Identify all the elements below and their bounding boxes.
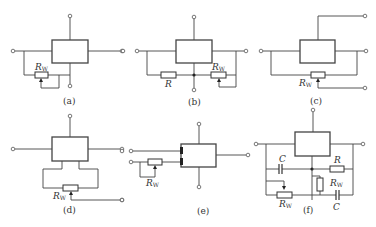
- amplifier-block: [300, 40, 335, 63]
- wiper-arrow-icon: [316, 78, 320, 82]
- terminal: [68, 114, 72, 118]
- wiper-arrow-icon: [153, 165, 157, 169]
- terminal: [246, 153, 250, 157]
- terminal: [363, 14, 367, 18]
- rw-label: RW: [52, 191, 67, 201]
- subfigure-b: R RW (b): [121, 15, 248, 107]
- amplifier-block: [295, 132, 330, 156]
- terminal: [121, 49, 125, 53]
- potentiometer-rw: [35, 72, 48, 78]
- amplifier-block: [52, 40, 88, 63]
- subfigure-d: RW (d): [11, 114, 124, 215]
- subfigure-a: RW (a): [11, 14, 124, 106]
- terminal: [129, 149, 133, 153]
- terminal: [197, 122, 201, 126]
- terminal: [135, 49, 139, 53]
- c-label: C: [279, 154, 286, 164]
- potentiometer-rw-vertical: [317, 178, 323, 191]
- terminal: [254, 142, 258, 146]
- input-pin: [180, 147, 183, 154]
- r-label: R: [164, 79, 172, 89]
- subfigure-e: RW (e): [120, 122, 250, 216]
- terminal: [361, 142, 365, 146]
- wiper-arrow-icon: [69, 191, 73, 195]
- potentiometer-rw: [211, 72, 226, 78]
- potentiometer-rw: [311, 72, 325, 78]
- resistor-r: [161, 72, 176, 78]
- terminal: [68, 84, 72, 88]
- potentiometer-rw: [63, 185, 78, 191]
- terminal: [11, 147, 15, 151]
- terminal: [363, 86, 367, 90]
- caption-f: (f): [303, 205, 313, 215]
- potentiometer-rw: [148, 159, 162, 165]
- terminal: [11, 49, 15, 53]
- resistor-r: [330, 166, 344, 172]
- caption-b: (b): [188, 97, 201, 107]
- rw-label: RW: [278, 199, 293, 209]
- terminal: [120, 198, 124, 202]
- wiper-arrow-icon: [217, 78, 221, 82]
- junction-dot: [192, 73, 195, 76]
- rw-label: RW: [329, 178, 344, 188]
- terminal: [120, 149, 124, 153]
- terminal: [192, 15, 196, 19]
- caption-a: (a): [63, 96, 75, 106]
- terminal: [259, 49, 263, 53]
- rw-label: RW: [298, 78, 313, 88]
- terminal: [192, 88, 196, 92]
- terminal: [364, 49, 368, 53]
- amplifier-block: [52, 137, 88, 161]
- rw-label: RW: [34, 62, 49, 72]
- subfigure-f: C R RW RW C (f): [254, 108, 365, 215]
- r-label: R: [333, 155, 341, 165]
- circuit-diagram-figure: RW (a) R RW (b): [0, 0, 376, 227]
- input-pin: [180, 158, 183, 165]
- caption-d: (d): [63, 205, 76, 215]
- rw-label: RW: [211, 62, 226, 72]
- caption-c: (c): [310, 96, 322, 106]
- potentiometer-rw: [277, 192, 292, 198]
- terminal: [311, 108, 315, 112]
- terminal: [244, 49, 248, 53]
- amplifier-block: [181, 144, 216, 167]
- terminal: [197, 185, 201, 189]
- caption-e: (e): [197, 206, 209, 216]
- wiper-arrow-icon: [282, 186, 286, 190]
- terminal: [68, 14, 72, 18]
- rw-label: RW: [145, 178, 160, 188]
- wiper-arrow-icon: [39, 78, 43, 82]
- terminal: [129, 160, 133, 164]
- amplifier-block: [176, 40, 212, 63]
- c-label: C: [333, 202, 340, 212]
- subfigure-c: RW (c): [259, 14, 368, 106]
